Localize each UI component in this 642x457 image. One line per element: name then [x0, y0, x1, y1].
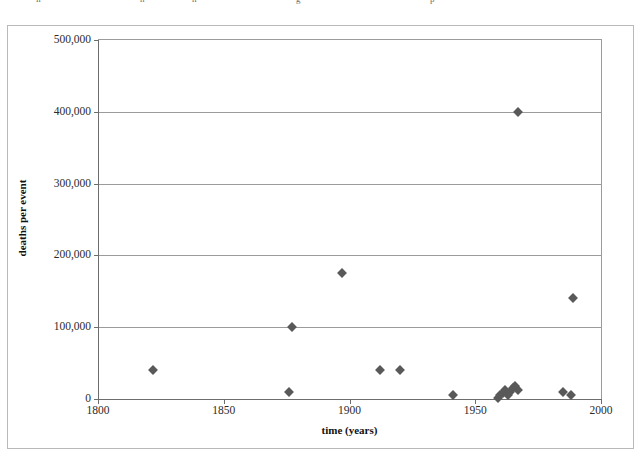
data-point-marker	[284, 387, 294, 397]
data-point-marker	[287, 322, 297, 332]
y-tick-mark	[94, 112, 98, 113]
y-tick-label: 200,000	[54, 248, 91, 260]
cut-off-caption-strip: irhngp	[0, 0, 642, 8]
y-axis-title: deaths per event	[16, 180, 28, 257]
caption-fragment: h	[140, 0, 145, 4]
gridline	[98, 327, 601, 328]
data-point-marker	[568, 294, 578, 304]
x-tick-label: 1900	[338, 404, 361, 416]
plot-area	[98, 39, 602, 399]
y-tick-label: 400,000	[54, 105, 91, 117]
data-point-marker	[513, 385, 523, 395]
data-point-marker	[337, 268, 347, 278]
caption-fragment: ir	[36, 0, 42, 4]
caption-fragment: p	[430, 0, 435, 4]
gridline	[98, 184, 601, 185]
data-point-marker	[375, 365, 385, 375]
x-tick-label: 1850	[212, 404, 235, 416]
y-tick-label: 100,000	[54, 320, 91, 332]
x-tick-label: 1950	[464, 404, 487, 416]
caption-fragment: n	[192, 0, 197, 4]
caption-fragment: g	[296, 0, 301, 4]
gridline	[98, 112, 601, 113]
y-tick-mark	[94, 327, 98, 328]
data-point-marker	[148, 365, 158, 375]
x-tick-label: 1800	[87, 404, 110, 416]
data-point-marker	[395, 365, 405, 375]
y-axis-line	[98, 40, 99, 399]
data-point-marker	[513, 107, 523, 117]
y-tick-label: 300,000	[54, 177, 91, 189]
y-tick-label: 500,000	[54, 33, 91, 45]
gridline	[98, 255, 601, 256]
y-tick-mark	[94, 184, 98, 185]
y-tick-mark	[94, 255, 98, 256]
scatter-chart: deaths per event 0100,000200,000300,0004…	[8, 26, 635, 450]
figure-frame: deaths per event 0100,000200,000300,0004…	[7, 25, 634, 449]
y-tick-label: 0	[85, 392, 91, 404]
x-axis-title: time (years)	[98, 424, 601, 436]
y-tick-mark	[94, 40, 98, 41]
x-tick-label: 2000	[590, 404, 613, 416]
